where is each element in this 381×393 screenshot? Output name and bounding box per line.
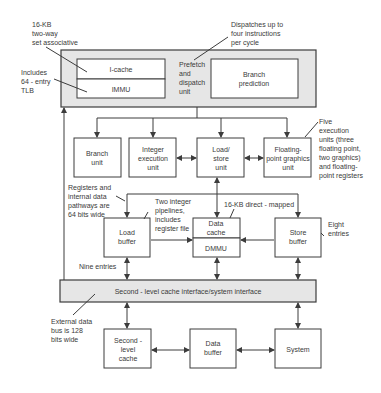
svg-text:External data: External data (51, 318, 92, 325)
svg-text:pipelines,: pipelines, (155, 207, 185, 215)
branch-unit-box (74, 138, 121, 177)
svg-text:Second -: Second - (114, 337, 143, 344)
svg-text:execution: execution (319, 127, 349, 134)
store-buffer-annotation: Eight entries (328, 221, 350, 237)
svg-text:Store: Store (290, 229, 307, 236)
svg-text:unit: unit (147, 164, 158, 171)
svg-text:Eight: Eight (328, 221, 344, 229)
svg-text:level: level (121, 346, 136, 353)
svg-text:Integer: Integer (142, 146, 164, 154)
svg-text:includes: includes (155, 216, 181, 223)
interface-bar-label: Second - level cache interface/system in… (115, 288, 262, 296)
processor-block-diagram: I-cache IMMU Prefetch and dispatch unit … (0, 0, 381, 393)
icache-annotation: 16-KB two-way set associative (32, 21, 78, 46)
svg-text:Load/: Load/ (212, 146, 230, 153)
svg-text:register file: register file (155, 225, 189, 233)
svg-text:Branch: Branch (86, 150, 108, 157)
svg-text:dispatch: dispatch (179, 79, 205, 87)
svg-text:two graphics): two graphics) (319, 154, 361, 162)
dispatch-annotation: Dispatches up to four instructions per c… (231, 21, 283, 47)
svg-text:16-KB: 16-KB (32, 21, 52, 28)
svg-text:unit: unit (282, 164, 293, 171)
svg-text:pathways are: pathways are (68, 202, 110, 210)
svg-text:buffer: buffer (289, 238, 307, 245)
svg-text:cache: cache (119, 355, 138, 362)
svg-text:Five: Five (319, 118, 332, 125)
load-buffer-annotation: Nine entries (79, 263, 117, 270)
svg-text:Includes: Includes (21, 69, 48, 76)
svg-text:unit: unit (215, 164, 226, 171)
svg-text:Data: Data (206, 340, 221, 347)
svg-text:Floating-: Floating- (274, 146, 302, 154)
svg-text:Data: Data (209, 220, 224, 227)
registers-annotation: Registers and internal data pathways are… (68, 184, 111, 218)
svg-text:64 - entry: 64 - entry (21, 78, 51, 86)
svg-text:entries: entries (328, 230, 350, 237)
branch-prediction-box (211, 59, 298, 98)
svg-text:point registers: point registers (319, 172, 363, 180)
pipelines-annotation: Two integer pipelines, includes register… (155, 198, 192, 233)
svg-text:execution: execution (138, 155, 168, 162)
svg-text:TLB: TLB (21, 87, 34, 94)
svg-text:and floating-: and floating- (319, 163, 358, 171)
tlb-annotation: Includes 64 - entry TLB (21, 69, 51, 94)
svg-text:unit: unit (91, 159, 102, 166)
svg-text:floating point,: floating point, (319, 145, 361, 153)
svg-text:internal data: internal data (68, 193, 107, 200)
svg-text:units (three: units (three (319, 136, 354, 144)
svg-text:four instructions: four instructions (231, 30, 281, 37)
svg-text:unit: unit (179, 88, 190, 95)
svg-text:two-way: two-way (32, 30, 58, 38)
svg-text:store: store (213, 155, 229, 162)
svg-text:Registers and: Registers and (68, 184, 111, 192)
svg-text:cache: cache (207, 229, 226, 236)
icache-label: I-cache (110, 66, 133, 73)
svg-text:bits wide: bits wide (51, 336, 78, 343)
svg-text:per cycle: per cycle (231, 39, 259, 47)
system-label: System (286, 346, 310, 354)
branch-prediction-label: Branch prediction (239, 71, 269, 88)
svg-text:Prefetch: Prefetch (179, 61, 205, 68)
dmmu-label: DMMU (205, 245, 227, 252)
svg-text:buffer: buffer (118, 238, 136, 245)
svg-text:buffer: buffer (204, 349, 222, 356)
svg-text:Dispatches up to: Dispatches up to (231, 21, 283, 29)
bus-annotation: External data bus is 128 bits wide (51, 318, 92, 343)
svg-text:Branch: Branch (243, 71, 265, 78)
svg-text:Two integer: Two integer (155, 198, 192, 206)
svg-text:Load: Load (119, 229, 135, 236)
svg-text:and: and (179, 70, 191, 77)
svg-text:prediction: prediction (239, 80, 269, 88)
svg-text:bus is 128: bus is 128 (51, 327, 83, 334)
svg-text:64 bits wide: 64 bits wide (68, 211, 105, 218)
svg-text:point graphics: point graphics (266, 155, 310, 163)
dcache-annotation: 16-KB direct - mapped (224, 201, 294, 209)
immu-label: IMMU (112, 86, 131, 93)
svg-text:set associative: set associative (32, 39, 78, 46)
exec-units-annotation: Five execution units (three floating poi… (319, 118, 363, 180)
